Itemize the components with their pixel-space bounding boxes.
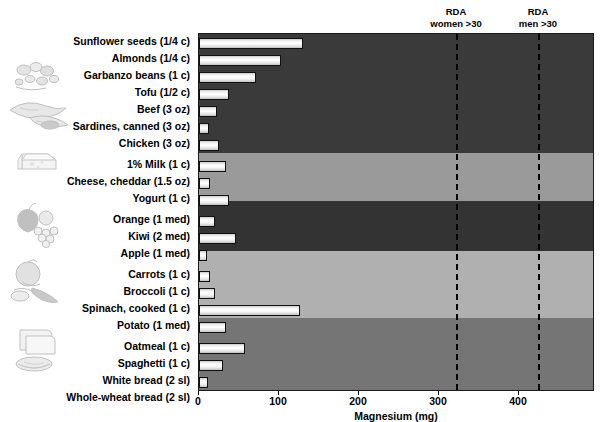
bar-broccoli [199, 288, 215, 299]
rda-men-annotation: RDA men >30 [519, 6, 557, 29]
bar-spinach-cooked [199, 305, 300, 316]
bar-potato [199, 322, 226, 333]
category-label: White bread (2 sl) [102, 375, 190, 386]
plot-area [198, 33, 594, 391]
category-label: 1% Milk (1 c) [127, 159, 190, 170]
category-label: Broccoli (1 c) [123, 286, 190, 297]
x-axis: 0 100 200 300 400 Magnesium (mg) [198, 391, 594, 422]
bar-chicken [199, 140, 219, 151]
category-label: Chicken (3 oz) [119, 138, 190, 149]
rda-women-line2: women >30 [430, 18, 481, 29]
rda-women-annotation: RDA women >30 [430, 6, 481, 29]
category-label: Almonds (1/4 c) [112, 53, 190, 64]
rda-women-line1: RDA [446, 6, 467, 17]
category-label: Cheese, cheddar (1.5 oz) [67, 176, 190, 187]
category-label: Oatmeal (1 c) [124, 341, 190, 352]
category-label: Yogurt (1 c) [132, 193, 190, 204]
bar-garbanzo-beans [199, 72, 256, 83]
x-tick-label: 200 [349, 395, 367, 407]
band-fruits [199, 201, 593, 251]
bar-sardines [199, 123, 209, 134]
x-tick-label: 0 [195, 395, 201, 407]
x-tick-label: 300 [429, 395, 447, 407]
category-label: Garbanzo beans (1 c) [84, 70, 190, 81]
band-protein-legumes [199, 34, 593, 153]
bar-orange [199, 216, 215, 227]
bar-yogurt [199, 195, 229, 206]
category-label: Carrots (1 c) [128, 269, 190, 280]
category-label: Kiwi (2 med) [128, 231, 190, 242]
bar-kiwi [199, 233, 236, 244]
bar-cheese-cheddar [199, 178, 210, 189]
bar-sunflower-seeds [199, 38, 303, 49]
bar-apple [199, 250, 207, 261]
category-label: Orange (1 med) [113, 214, 190, 225]
band-dairy [199, 153, 593, 201]
bar-tofu [199, 89, 229, 100]
bar-almonds [199, 55, 281, 66]
category-label: Tofu (1/2 c) [135, 87, 190, 98]
x-tick-label: 400 [509, 395, 527, 407]
bar-carrots [199, 271, 210, 282]
category-label: Sardines, canned (3 oz) [73, 121, 190, 132]
bar-oatmeal [199, 343, 245, 354]
category-label: Spaghetti (1 c) [118, 358, 190, 369]
bar-spaghetti [199, 360, 223, 371]
rda-women-line [456, 34, 458, 390]
rda-men-line [538, 34, 540, 390]
category-label: Sunflower seeds (1/4 c) [73, 36, 190, 47]
band-grains [199, 318, 593, 391]
category-label-column: Sunflower seeds (1/4 c) Almonds (1/4 c) … [0, 33, 194, 391]
category-label: Whole-wheat bread (2 sl) [66, 392, 190, 403]
bar-beef [199, 106, 217, 117]
x-axis-title: Magnesium (mg) [198, 410, 594, 422]
bar-milk [199, 161, 226, 172]
category-label: Spinach, cooked (1 c) [82, 303, 190, 314]
rda-men-line2: men >30 [519, 18, 557, 29]
magnesium-food-chart: Sunflower seeds (1/4 c) Almonds (1/4 c) … [0, 0, 602, 422]
category-label: Potato (1 med) [117, 320, 190, 331]
rda-men-line1: RDA [528, 6, 549, 17]
bar-white-bread [199, 377, 208, 388]
category-label: Beef (3 oz) [137, 104, 190, 115]
x-tick-label: 100 [269, 395, 287, 407]
category-label: Apple (1 med) [121, 248, 190, 259]
